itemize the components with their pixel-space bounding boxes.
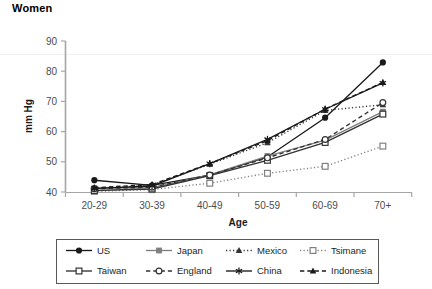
y-tick-label: 80 bbox=[46, 66, 58, 77]
x-tick-label: 40-49 bbox=[197, 200, 223, 211]
legend-marker bbox=[76, 268, 82, 274]
chart-figure: Women 90 80 70 bbox=[0, 0, 432, 289]
legend-item-england[interactable]: England bbox=[146, 265, 212, 276]
data-point bbox=[207, 180, 213, 186]
legend-item-china[interactable]: China bbox=[226, 265, 283, 276]
legend-label: England bbox=[177, 265, 212, 276]
x-tick-label: 20-29 bbox=[82, 200, 108, 211]
legend-marker bbox=[156, 268, 162, 274]
x-tick-label: 50-59 bbox=[255, 200, 281, 211]
x-axis-tick-labels: 20-29 30-39 40-49 50-59 60-69 70+ bbox=[82, 200, 392, 211]
data-point bbox=[322, 137, 328, 143]
legend-label: Tsimane bbox=[331, 245, 366, 256]
legend-layer: USJapanMexicoTsimaneTaiwanEnglandChinaIn… bbox=[66, 245, 373, 277]
y-axis-tick-labels: 90 80 70 60 50 40 bbox=[46, 36, 58, 198]
legend-label: US bbox=[97, 245, 110, 256]
data-point bbox=[380, 59, 386, 65]
legend-item-us[interactable]: US bbox=[66, 245, 110, 256]
y-tick-label: 90 bbox=[46, 36, 58, 47]
x-tick-label: 70+ bbox=[374, 200, 391, 211]
series-england bbox=[91, 100, 385, 192]
series-us bbox=[91, 59, 386, 188]
legend-label: China bbox=[257, 265, 283, 276]
legend-item-mexico[interactable]: Mexico bbox=[226, 245, 287, 256]
data-point bbox=[265, 170, 271, 176]
x-tick-label: 60-69 bbox=[312, 200, 338, 211]
x-tick-label: 30-39 bbox=[139, 200, 165, 211]
series-china bbox=[91, 79, 386, 192]
y-tick-label: 50 bbox=[46, 156, 58, 167]
legend-marker bbox=[310, 248, 316, 254]
legend-label: Mexico bbox=[257, 245, 287, 256]
legend-label: Taiwan bbox=[97, 265, 127, 276]
legend-marker bbox=[76, 247, 82, 253]
legend-marker bbox=[156, 248, 162, 254]
legend-item-tsimane[interactable]: Tsimane bbox=[300, 245, 366, 256]
legend-item-indonesia[interactable]: Indonesia bbox=[300, 265, 373, 276]
data-point bbox=[380, 100, 386, 106]
series-taiwan bbox=[91, 111, 385, 193]
data-point bbox=[91, 177, 97, 183]
x-axis-ticks bbox=[66, 193, 412, 198]
line-chart-plot: 90 80 70 60 50 40 mm Hg 20-29 30-39 40-4… bbox=[0, 0, 432, 289]
data-point bbox=[380, 143, 386, 149]
legend-item-taiwan[interactable]: Taiwan bbox=[66, 265, 127, 276]
data-point bbox=[265, 155, 271, 161]
series-layer bbox=[91, 59, 386, 194]
legend-item-japan[interactable]: Japan bbox=[146, 245, 203, 256]
data-point bbox=[322, 163, 328, 169]
data-point bbox=[207, 172, 213, 178]
legend-label: Japan bbox=[177, 245, 203, 256]
legend-label: Indonesia bbox=[331, 265, 373, 276]
y-tick-label: 40 bbox=[46, 187, 58, 198]
y-tick-label: 60 bbox=[46, 126, 58, 137]
x-axis-title: Age bbox=[229, 217, 248, 228]
y-axis-title: mm Hg bbox=[23, 99, 34, 133]
data-point bbox=[380, 111, 386, 117]
data-point bbox=[322, 115, 328, 121]
y-tick-label: 70 bbox=[46, 96, 58, 107]
